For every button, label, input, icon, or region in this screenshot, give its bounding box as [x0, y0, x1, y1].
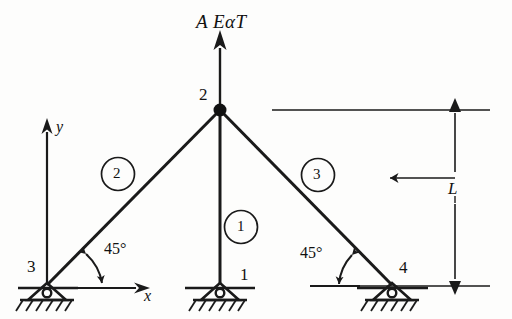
member-2-label: 2: [113, 166, 121, 181]
truss-diagram: A EαT 2 3 1 4 2 1 3 45° 45° y x L: [0, 0, 512, 319]
angle-arc-left: [86, 254, 102, 283]
member-2-line: [47, 110, 220, 285]
truss-drawing-canvas: [0, 0, 512, 319]
node-4-label: 4: [399, 259, 408, 276]
load-label: A EαT: [196, 12, 247, 31]
dimension-L-label: L: [448, 180, 457, 197]
load-arrow: [214, 30, 227, 108]
node-3-label: 3: [27, 258, 36, 275]
x-axis-label: x: [144, 288, 151, 304]
member-number-circles: [102, 158, 335, 244]
hatching-node-4: [361, 300, 417, 311]
hatching-node-1: [189, 300, 245, 311]
member-3-label: 3: [313, 167, 321, 182]
node-2-joint-dot: [214, 104, 227, 117]
node-2-label: 2: [199, 86, 208, 103]
hatching-node-3: [16, 300, 72, 311]
truss-members: [47, 110, 392, 285]
angle-arc-right: [339, 255, 352, 284]
y-axis-label: y: [56, 119, 63, 135]
node-1-label: 1: [240, 266, 249, 283]
member-1-label: 1: [237, 219, 245, 234]
angle-left-label: 45°: [104, 241, 126, 257]
angle-right-label: 45°: [300, 245, 322, 261]
